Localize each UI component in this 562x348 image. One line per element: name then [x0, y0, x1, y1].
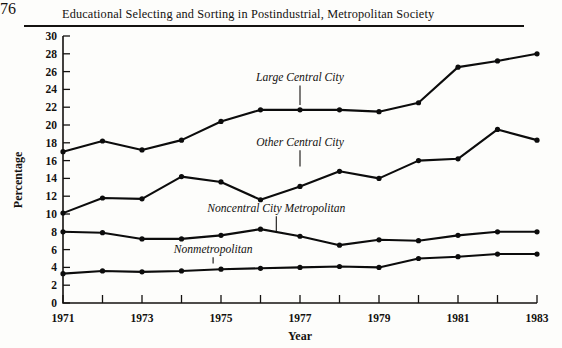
data-point-marker	[179, 268, 184, 273]
data-point-marker	[416, 238, 421, 243]
x-tick-label: 1973	[131, 312, 154, 324]
data-point-marker	[297, 234, 302, 239]
data-point-marker	[100, 138, 105, 143]
data-point-marker	[139, 269, 144, 274]
x-tick-label: 1979	[368, 312, 391, 324]
y-tick-label: 8	[51, 226, 57, 238]
data-point-marker	[60, 271, 65, 276]
data-point-marker	[139, 236, 144, 241]
line-chart-figure: 024681012141618202224262830 197119731975…	[0, 28, 562, 348]
page-header: 76 Educational Selecting and Sorting in …	[0, 0, 562, 30]
x-tick-label: 1971	[52, 312, 75, 324]
data-point-marker	[534, 251, 539, 256]
data-point-marker	[218, 119, 223, 124]
data-point-marker	[416, 256, 421, 261]
y-axis-title: Percentage	[11, 151, 25, 208]
x-axis-title: Year	[288, 329, 313, 343]
data-series	[60, 251, 539, 276]
y-tick-label: 30	[46, 30, 58, 42]
data-point-marker	[297, 184, 302, 189]
data-point-marker	[495, 251, 500, 256]
y-tick-label: 14	[46, 172, 58, 184]
data-point-marker	[495, 58, 500, 63]
data-point-marker	[60, 211, 65, 216]
y-tick-label: 22	[46, 101, 58, 113]
data-point-marker	[376, 176, 381, 181]
data-point-marker	[337, 107, 342, 112]
data-point-marker	[60, 229, 65, 234]
data-point-marker	[139, 196, 144, 201]
data-point-marker	[455, 254, 460, 259]
data-point-marker	[179, 174, 184, 179]
data-point-marker	[297, 265, 302, 270]
data-point-marker	[297, 107, 302, 112]
y-tick-label: 16	[46, 155, 58, 167]
data-series	[60, 227, 539, 248]
data-point-marker	[337, 243, 342, 248]
data-point-marker	[495, 229, 500, 234]
data-point-marker	[337, 264, 342, 269]
data-point-marker	[455, 156, 460, 161]
series-annotations: Large Central CityOther Central CityNonc…	[173, 71, 346, 263]
y-tick-label: 28	[46, 48, 58, 60]
y-tick-label: 2	[51, 279, 57, 291]
y-tick-label: 24	[46, 83, 58, 95]
data-point-marker	[218, 179, 223, 184]
series-label-1: Other Central City	[256, 136, 344, 149]
y-axis-ticks: 024681012141618202224262830	[46, 30, 71, 309]
y-tick-label: 12	[46, 190, 58, 202]
data-point-marker	[258, 227, 263, 232]
data-point-marker	[100, 268, 105, 273]
data-point-marker	[455, 65, 460, 70]
data-point-marker	[376, 265, 381, 270]
series-line	[63, 254, 537, 274]
y-tick-label: 4	[51, 261, 57, 273]
data-point-marker	[416, 100, 421, 105]
data-point-marker	[534, 229, 539, 234]
x-tick-label: 1977	[289, 312, 312, 324]
series-label-3: Nonmetropolitan	[173, 243, 253, 256]
data-point-marker	[218, 233, 223, 238]
x-tick-label: 1975	[210, 312, 233, 324]
data-point-marker	[534, 138, 539, 143]
y-tick-label: 26	[46, 66, 58, 78]
data-point-marker	[218, 267, 223, 272]
data-point-marker	[534, 51, 539, 56]
data-point-marker	[495, 127, 500, 132]
x-tick-label: 1981	[447, 312, 470, 324]
data-point-marker	[455, 233, 460, 238]
data-point-marker	[100, 195, 105, 200]
data-point-marker	[337, 169, 342, 174]
y-tick-label: 10	[46, 208, 58, 220]
data-point-marker	[416, 158, 421, 163]
data-point-marker	[258, 107, 263, 112]
series-label-0: Large Central City	[255, 71, 345, 84]
data-point-marker	[60, 149, 65, 154]
data-point-marker	[179, 236, 184, 241]
y-tick-label: 18	[46, 137, 58, 149]
header-rule	[24, 25, 524, 27]
chart-canvas: 024681012141618202224262830 197119731975…	[0, 28, 562, 348]
running-head-title: Educational Selecting and Sorting in Pos…	[62, 7, 434, 22]
x-tick-label: 1983	[526, 312, 549, 324]
y-tick-label: 0	[51, 297, 57, 309]
data-point-marker	[376, 237, 381, 242]
data-point-marker	[376, 109, 381, 114]
data-point-marker	[258, 266, 263, 271]
x-axis-ticks: 1971197319751977197919811983	[52, 295, 549, 324]
y-tick-label: 6	[51, 244, 57, 256]
series-label-2: Noncentral City Metropolitan	[206, 202, 345, 215]
y-tick-label: 20	[46, 119, 58, 131]
data-point-marker	[179, 138, 184, 143]
data-point-marker	[139, 147, 144, 152]
data-point-marker	[100, 230, 105, 235]
